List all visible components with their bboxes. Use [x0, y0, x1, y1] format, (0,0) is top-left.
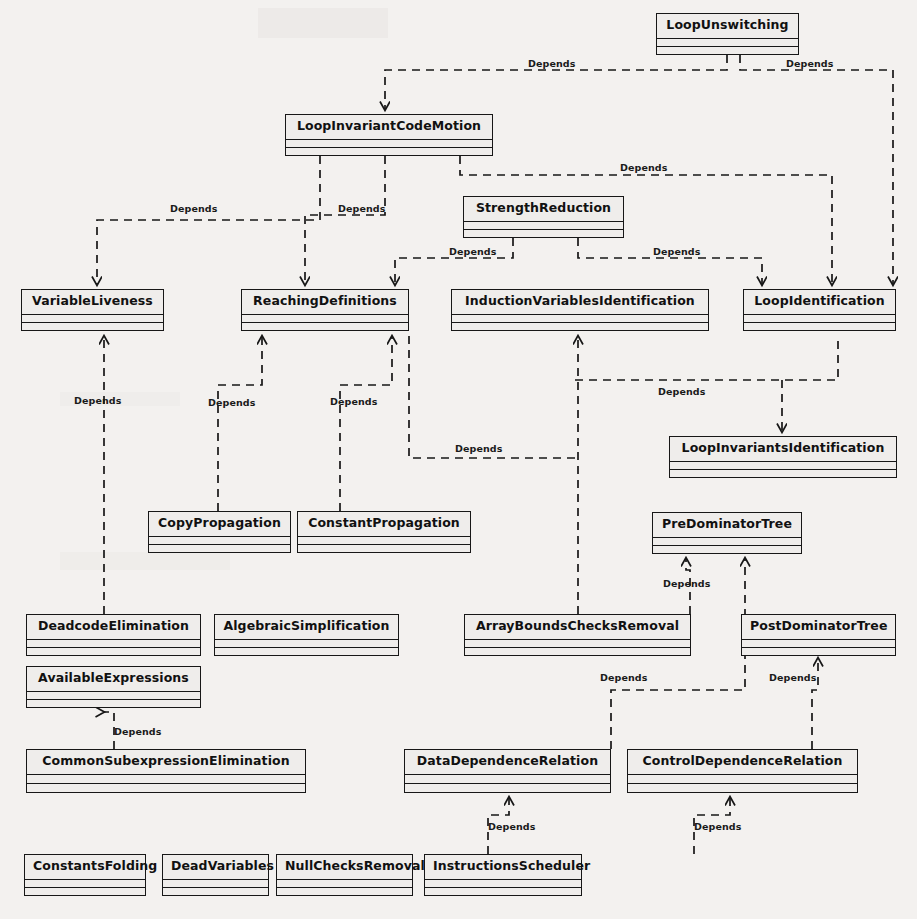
dependency-label-copy-propagation-to-reaching-definitions: Depends — [208, 397, 256, 408]
uml-operations-compartment — [405, 784, 610, 792]
uml-class-variable-liveness[interactable]: VariableLiveness — [21, 289, 164, 331]
uml-operations-compartment — [298, 545, 470, 552]
uml-attributes-compartment — [657, 39, 798, 47]
uml-operations-compartment — [628, 784, 857, 792]
uml-class-name: ControlDependenceRelation — [628, 750, 857, 775]
uml-class-array-bounds-checks-removal[interactable]: ArrayBoundsChecksRemoval — [464, 614, 691, 656]
uml-class-name: ConstantPropagation — [298, 512, 470, 537]
uml-class-loop-unswitching[interactable]: LoopUnswitching — [656, 13, 799, 55]
dependency-label-instructions-scheduler-to-control-dependence-relation: Depends — [694, 821, 742, 832]
uml-attributes-compartment — [744, 315, 895, 323]
uml-class-induction-variables-identification[interactable]: InductionVariablesIdentification — [451, 289, 709, 331]
uml-attributes-compartment — [149, 537, 290, 545]
uml-class-constants-folding[interactable]: ConstantsFolding — [24, 854, 146, 896]
uml-class-name: ReachingDefinitions — [242, 290, 408, 315]
diagram-canvas: LoopUnswitchingLoopInvariantCodeMotionSt… — [0, 0, 917, 919]
uml-class-control-dependence-relation[interactable]: ControlDependenceRelation — [627, 749, 858, 793]
uml-class-name: LoopUnswitching — [657, 14, 798, 39]
dependency-label-common-subexpression-elimination-to-available-expressions: Depends — [114, 726, 162, 737]
dependency-label-array-bounds-checks-removal-to-induction-variables-identification: Depends — [455, 443, 503, 454]
uml-operations-compartment — [657, 47, 798, 54]
uml-class-name: VariableLiveness — [22, 290, 163, 315]
uml-operations-compartment — [452, 323, 708, 330]
uml-operations-compartment — [425, 888, 581, 895]
uml-class-loop-invariants-identification[interactable]: LoopInvariantsIdentification — [669, 436, 897, 478]
uml-class-name: LoopInvariantCodeMotion — [286, 115, 492, 140]
uml-class-name: DeadcodeElimination — [27, 615, 200, 640]
dependency-label-loop-unswitching-to-loop-identification: Depends — [786, 58, 834, 69]
uml-attributes-compartment — [286, 140, 492, 148]
uml-operations-compartment — [742, 648, 895, 655]
uml-class-algebraic-simplification[interactable]: AlgebraicSimplification — [214, 614, 399, 656]
uml-class-name: AlgebraicSimplification — [215, 615, 398, 640]
uml-attributes-compartment — [405, 775, 610, 784]
uml-operations-compartment — [464, 230, 623, 237]
uml-attributes-compartment — [163, 880, 268, 888]
uml-operations-compartment — [277, 888, 412, 895]
uml-class-reaching-definitions[interactable]: ReachingDefinitions — [241, 289, 409, 331]
uml-operations-compartment — [27, 784, 305, 792]
uml-class-name: NullChecksRemoval — [277, 855, 412, 880]
uml-class-name: DeadVariables — [163, 855, 268, 880]
uml-operations-compartment — [653, 546, 801, 553]
uml-class-name: DataDependenceRelation — [405, 750, 610, 775]
uml-class-null-checks-removal[interactable]: NullChecksRemoval — [276, 854, 413, 896]
uml-class-constant-propagation[interactable]: ConstantPropagation — [297, 511, 471, 553]
uml-attributes-compartment — [452, 315, 708, 323]
uml-operations-compartment — [27, 700, 200, 707]
uml-attributes-compartment — [215, 640, 398, 648]
uml-class-strength-reduction[interactable]: StrengthReduction — [463, 196, 624, 238]
uml-attributes-compartment — [670, 462, 896, 470]
uml-operations-compartment — [670, 470, 896, 477]
dependency-label-loop-invariant-code-motion-to-reaching-definitions: Depends — [338, 203, 386, 214]
uml-class-name: InstructionsScheduler — [425, 855, 581, 880]
uml-class-name: InductionVariablesIdentification — [452, 290, 708, 315]
uml-class-name: StrengthReduction — [464, 197, 623, 222]
uml-class-name: ConstantsFolding — [25, 855, 145, 880]
scan-artifact — [258, 8, 388, 38]
uml-operations-compartment — [215, 648, 398, 655]
uml-attributes-compartment — [653, 538, 801, 546]
uml-attributes-compartment — [298, 537, 470, 545]
uml-class-common-subexpression-elimination[interactable]: CommonSubexpressionElimination — [26, 749, 306, 793]
uml-class-loop-invariant-code-motion[interactable]: LoopInvariantCodeMotion — [285, 114, 493, 156]
uml-attributes-compartment — [742, 640, 895, 648]
uml-attributes-compartment — [465, 640, 690, 648]
dependency-label-array-bounds-checks-removal-to-pre-dominator-tree: Depends — [663, 578, 711, 589]
uml-attributes-compartment — [27, 692, 200, 700]
dependency-label-deadcode-elimination-to-variable-liveness: Depends — [74, 395, 122, 406]
uml-attributes-compartment — [277, 880, 412, 888]
uml-class-instructions-scheduler[interactable]: InstructionsScheduler — [424, 854, 582, 896]
uml-operations-compartment — [22, 323, 163, 330]
uml-class-name: PreDominatorTree — [653, 513, 801, 538]
scan-artifact — [60, 552, 230, 570]
uml-class-deadcode-elimination[interactable]: DeadcodeElimination — [26, 614, 201, 656]
uml-class-name: LoopInvariantsIdentification — [670, 437, 896, 462]
uml-class-data-dependence-relation[interactable]: DataDependenceRelation — [404, 749, 611, 793]
uml-attributes-compartment — [242, 315, 408, 323]
uml-class-name: AvailableExpressions — [27, 667, 200, 692]
uml-operations-compartment — [286, 148, 492, 155]
uml-attributes-compartment — [27, 775, 305, 784]
dependency-label-control-dependence-relation-to-post-dominator-tree: Depends — [769, 672, 817, 683]
uml-attributes-compartment — [22, 315, 163, 323]
uml-class-post-dominator-tree[interactable]: PostDominatorTree — [741, 614, 896, 656]
uml-class-available-expressions[interactable]: AvailableExpressions — [26, 666, 201, 708]
uml-operations-compartment — [149, 545, 290, 552]
uml-class-dead-variables[interactable]: DeadVariables — [162, 854, 269, 896]
uml-class-pre-dominator-tree[interactable]: PreDominatorTree — [652, 512, 802, 554]
uml-class-copy-propagation[interactable]: CopyPropagation — [148, 511, 291, 553]
uml-operations-compartment — [242, 323, 408, 330]
dependency-label-loop-unswitching-to-loop-invariant-code-motion: Depends — [528, 58, 576, 69]
uml-attributes-compartment — [425, 880, 581, 888]
uml-operations-compartment — [163, 888, 268, 895]
uml-attributes-compartment — [27, 640, 200, 648]
uml-class-name: CommonSubexpressionElimination — [27, 750, 305, 775]
dependency-label-constant-propagation-to-reaching-definitions: Depends — [330, 396, 378, 407]
dependency-label-strength-reduction-to-loop-identification: Depends — [653, 246, 701, 257]
uml-attributes-compartment — [25, 880, 145, 888]
dependency-label-loop-invariants-identification-to-loop-identification: Depends — [658, 386, 706, 397]
uml-class-loop-identification[interactable]: LoopIdentification — [743, 289, 896, 331]
dependency-label-strength-reduction-to-reaching-definitions: Depends — [449, 246, 497, 257]
uml-operations-compartment — [744, 323, 895, 330]
